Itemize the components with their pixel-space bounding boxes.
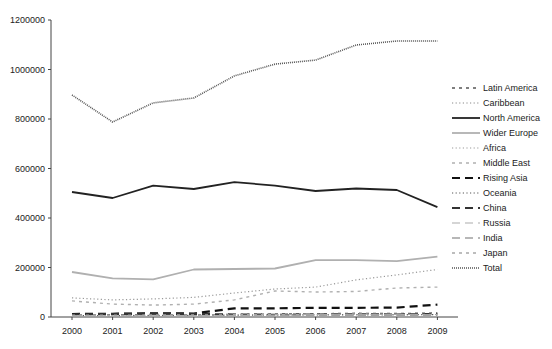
- legend-label: Latin America: [483, 83, 538, 93]
- series-line-north-america: [72, 182, 437, 207]
- y-tick-label: 800000: [15, 114, 45, 124]
- plot-area: [72, 41, 437, 316]
- x-axis: 2000200120022003200420052006200720082009: [51, 317, 458, 336]
- x-tick-label: 2007: [346, 326, 366, 336]
- legend-label: Total: [483, 263, 502, 273]
- x-tick-label: 2001: [103, 326, 123, 336]
- legend: Latin AmericaCaribbeanNorth AmericaWider…: [452, 83, 540, 273]
- x-tick-label: 2002: [143, 326, 163, 336]
- legend-label: Africa: [483, 143, 506, 153]
- legend-label: Oceania: [483, 188, 517, 198]
- legend-label: Wider Europe: [483, 128, 538, 138]
- y-tick-label: 200000: [15, 263, 45, 273]
- x-tick-label: 2005: [265, 326, 285, 336]
- y-tick-label: 1200000: [10, 15, 45, 25]
- x-tick-label: 2004: [224, 326, 244, 336]
- y-tick-label: 0: [40, 312, 45, 322]
- y-tick-label: 1000000: [10, 65, 45, 75]
- x-tick-label: 2006: [306, 326, 326, 336]
- y-tick-label: 400000: [15, 213, 45, 223]
- legend-label: Middle East: [483, 158, 531, 168]
- line-chart: 020000040000060000080000010000001200000 …: [0, 0, 552, 349]
- series-line-wider-europe: [72, 257, 437, 280]
- legend-label: Russia: [483, 218, 511, 228]
- x-tick-label: 2008: [387, 326, 407, 336]
- y-tick-label: 600000: [15, 164, 45, 174]
- x-tick-label: 2000: [62, 326, 82, 336]
- legend-label: China: [483, 203, 507, 213]
- x-tick-label: 2003: [184, 326, 204, 336]
- series-line-rising-asia: [72, 305, 437, 314]
- legend-label: Caribbean: [483, 98, 525, 108]
- legend-label: North America: [483, 113, 540, 123]
- series-line-total: [72, 41, 437, 122]
- legend-label: India: [483, 233, 503, 243]
- y-axis: 020000040000060000080000010000001200000: [10, 15, 51, 322]
- legend-label: Rising Asia: [483, 173, 528, 183]
- legend-label: Japan: [483, 248, 508, 258]
- x-tick-label: 2009: [427, 326, 447, 336]
- series-line-middle-east: [72, 287, 437, 305]
